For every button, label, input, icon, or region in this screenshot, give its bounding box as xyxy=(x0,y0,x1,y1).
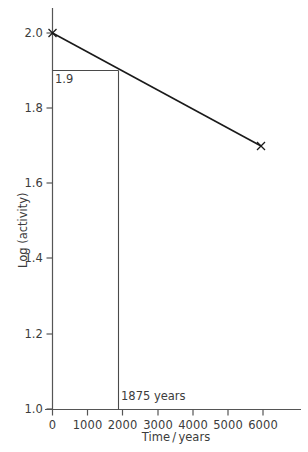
y-tick-label-1-0: 1.0 xyxy=(0,402,43,416)
x-tick-label-0: 0 xyxy=(49,418,56,432)
x-tick-label-1000: 1000 xyxy=(73,418,103,432)
decay-trend-line xyxy=(53,33,262,146)
x-axis-title: Time / years xyxy=(142,430,210,444)
x-tick-label-2000: 2000 xyxy=(108,418,138,432)
y-axis-title: Log (activity) xyxy=(16,192,30,268)
data-point-marker-end xyxy=(257,142,265,150)
x-axis-ticks xyxy=(53,410,264,416)
y-tick-label-1-2: 1.2 xyxy=(0,327,43,341)
y-tick-label-1-8: 1.8 xyxy=(0,101,43,115)
decay-chart: 2.0 1.8 1.6 1.4 1.2 1.0 0 1000 2000 3000… xyxy=(0,0,308,452)
y-tick-label-2-0: 2.0 xyxy=(0,26,43,40)
x-tick-label-6000: 6000 xyxy=(248,418,278,432)
half-life-annotation: 1875 years xyxy=(121,389,186,403)
plot-area xyxy=(0,0,308,452)
x-tick-label-5000: 5000 xyxy=(213,418,243,432)
activity-level-annotation: 1.9 xyxy=(55,72,73,86)
y-axis-ticks xyxy=(47,33,53,409)
y-tick-label-1-6: 1.6 xyxy=(0,176,43,190)
